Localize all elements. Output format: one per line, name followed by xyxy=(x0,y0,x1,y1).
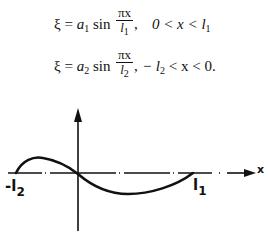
wave-curve xyxy=(16,158,193,194)
x-axis-arrow-icon xyxy=(244,169,256,177)
left-endpoint-label: -l2 xyxy=(5,177,25,199)
x-axis-label: x xyxy=(257,163,264,176)
y-axis-arrow-icon xyxy=(74,108,82,122)
wave-diagram xyxy=(0,0,268,245)
right-endpoint-label: l1 xyxy=(193,176,207,198)
